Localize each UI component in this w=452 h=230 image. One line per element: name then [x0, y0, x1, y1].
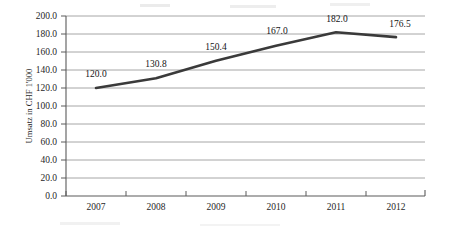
y-axis-title: Umsatz in CHF 1'000	[24, 69, 34, 144]
y-tick-label: 100.0	[36, 101, 58, 111]
data-label-2012: 176.5	[389, 19, 411, 29]
x-tick-label-2011: 2011	[327, 202, 346, 212]
data-label-2011: 182.0	[326, 14, 348, 24]
y-tick-label: 200.0	[36, 11, 58, 21]
y-tick-label: 20.0	[40, 173, 57, 183]
x-tick-label-2007: 2007	[87, 202, 106, 212]
data-label-2010: 167.0	[266, 26, 288, 36]
chart-canvas: 200.0 180.0 160.0 140.0 120.0 100.0 80.0…	[0, 0, 452, 230]
y-tick-label: 140.0	[36, 65, 58, 75]
x-tick-label-2008: 2008	[147, 202, 166, 212]
y-tick-label: 0.0	[45, 191, 57, 201]
x-tick-label-2010: 2010	[267, 202, 286, 212]
y-tick-label: 120.0	[36, 83, 58, 93]
y-tick-label: 80.0	[40, 119, 57, 129]
y-tick-label: 180.0	[36, 29, 58, 39]
line-chart: 200.0 180.0 160.0 140.0 120.0 100.0 80.0…	[0, 0, 452, 230]
data-label-2008: 130.8	[145, 59, 167, 69]
y-tick-label: 160.0	[36, 47, 58, 57]
x-tick-label-2012: 2012	[387, 202, 406, 212]
y-tick-label: 40.0	[40, 155, 57, 165]
data-label-2009: 150.4	[205, 42, 227, 52]
x-tick-label-2009: 2009	[207, 202, 226, 212]
data-label-2007: 120.0	[85, 69, 107, 79]
y-tick-label: 60.0	[40, 137, 57, 147]
